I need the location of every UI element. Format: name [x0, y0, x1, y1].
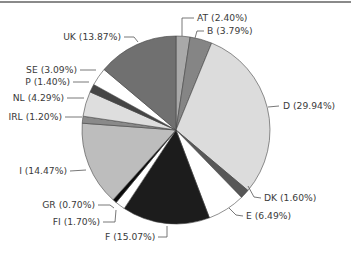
pie-chart: AT (2.40%)B (3.79%)D (29.94%)DK (1.60%)E… — [0, 0, 351, 253]
slice-label-fi: FI (1.70%) — [53, 216, 100, 227]
leader-line-b — [195, 31, 204, 38]
leader-line-d — [268, 106, 279, 107]
slice-label-b: B (3.79%) — [207, 25, 253, 36]
leader-line-uk — [124, 37, 138, 42]
leader-line-fi — [103, 210, 116, 222]
leader-line-i — [70, 170, 86, 171]
slice-label-gr: GR (0.70%) — [42, 199, 95, 210]
slice-label-at: AT (2.40%) — [197, 12, 247, 23]
slice-label-e: E (6.49%) — [246, 210, 291, 221]
pie-slices — [82, 36, 270, 224]
slice-label-uk: UK (13.87%) — [63, 31, 121, 42]
slice-label-d: D (29.94%) — [283, 100, 335, 111]
leader-line-at — [182, 18, 194, 36]
slice-label-i: I (14.47%) — [19, 165, 67, 176]
leader-line-gr — [98, 205, 114, 208]
slice-label-nl: NL (4.29%) — [13, 92, 64, 103]
slice-label-dk: DK (1.60%) — [264, 192, 316, 203]
leader-line-f — [158, 226, 167, 237]
leader-line-e — [229, 208, 243, 216]
slice-label-p: P (1.40%) — [25, 76, 70, 87]
slice-label-f: F (15.07%) — [105, 231, 155, 242]
slice-label-se: SE (3.09%) — [26, 64, 77, 75]
slice-label-irl: IRL (1.20%) — [9, 111, 63, 122]
